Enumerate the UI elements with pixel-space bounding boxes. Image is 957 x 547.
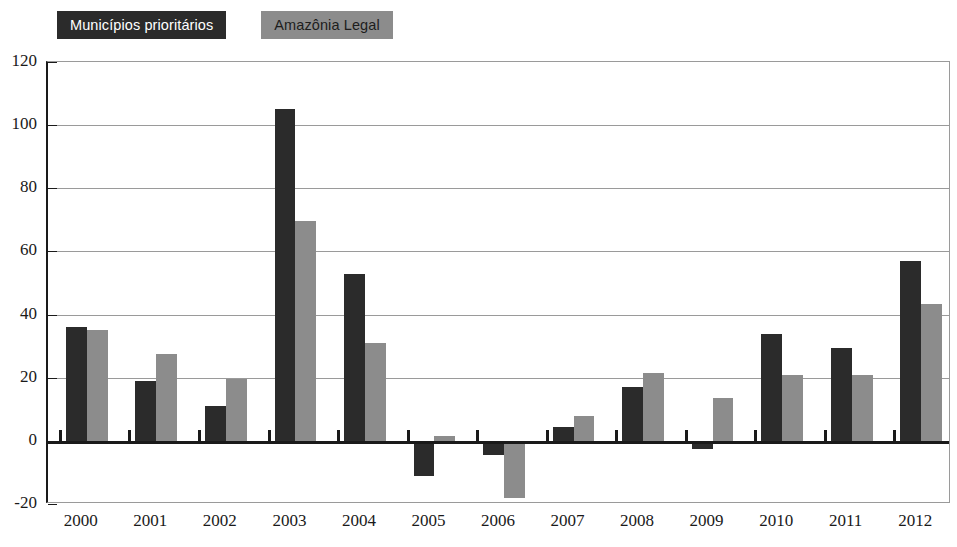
- bar-series-layer: [48, 62, 949, 502]
- legend-item-amazonia-legal: Amazônia Legal: [261, 11, 392, 39]
- x-axis-label-2006: 2006: [458, 511, 538, 531]
- x-axis-label-2008: 2008: [597, 511, 677, 531]
- bar-group: [66, 62, 108, 502]
- bar-2011-series-0: [831, 348, 852, 441]
- x-axis-label-2012: 2012: [875, 511, 955, 531]
- x-axis-tick: [198, 430, 201, 444]
- bar-group: [135, 62, 177, 502]
- chart-page: Municípios prioritários Amazônia Legal 1…: [0, 0, 957, 547]
- bar-group: [205, 62, 247, 502]
- bar-group: [553, 62, 595, 502]
- bar-2008-series-1: [643, 373, 664, 441]
- x-axis-label-2003: 2003: [249, 511, 329, 531]
- y-axis-tick: [48, 504, 57, 505]
- x-axis-label-2005: 2005: [388, 511, 468, 531]
- legend-item-municipios-prioritarios: Municípios prioritários: [57, 11, 226, 39]
- bar-group: [622, 62, 664, 502]
- x-axis-tick: [337, 430, 340, 444]
- bar-2003-series-1: [295, 221, 316, 440]
- x-axis-tick: [128, 430, 131, 444]
- x-axis-tick: [754, 430, 757, 444]
- bar-2007-series-0: [553, 427, 574, 441]
- plot-area: [46, 61, 950, 503]
- bar-2006-series-1: [504, 441, 525, 498]
- bar-2000-series-0: [66, 327, 87, 441]
- y-axis-label: 80: [0, 177, 37, 197]
- zero-baseline: [46, 441, 949, 444]
- bar-2000-series-1: [87, 330, 108, 441]
- x-axis-label-2011: 2011: [806, 511, 886, 531]
- x-axis-label-2000: 2000: [41, 511, 121, 531]
- x-axis-tick: [824, 430, 827, 444]
- bar-group: [761, 62, 803, 502]
- bar-2002-series-0: [205, 406, 226, 441]
- x-axis-label-2001: 2001: [110, 511, 190, 531]
- bar-2001-series-0: [135, 381, 156, 441]
- x-axis-tick: [476, 430, 479, 444]
- bar-2012-series-1: [921, 304, 942, 441]
- bar-group: [831, 62, 873, 502]
- bar-2004-series-1: [365, 343, 386, 441]
- bar-2001-series-1: [156, 354, 177, 441]
- y-axis-label: 60: [0, 240, 37, 260]
- x-axis-label-2010: 2010: [736, 511, 816, 531]
- x-axis-label-2007: 2007: [528, 511, 608, 531]
- bar-2004-series-0: [344, 274, 365, 441]
- bar-2009-series-1: [713, 398, 734, 441]
- bar-2007-series-1: [574, 416, 595, 441]
- bar-2003-series-0: [275, 109, 296, 441]
- x-axis-tick: [59, 430, 62, 444]
- x-axis-tick: [615, 430, 618, 444]
- bar-group: [900, 62, 942, 502]
- x-axis-label-2009: 2009: [667, 511, 747, 531]
- y-axis-label: 120: [0, 51, 37, 71]
- x-axis-label-2004: 2004: [319, 511, 399, 531]
- x-axis-tick: [685, 430, 688, 444]
- bar-2010-series-0: [761, 334, 782, 441]
- legend-label: Amazônia Legal: [274, 17, 379, 33]
- y-axis-label: 40: [0, 304, 37, 324]
- x-axis-tick: [893, 430, 896, 444]
- x-axis-tick: [546, 430, 549, 444]
- y-axis-label: 20: [0, 367, 37, 387]
- bar-2002-series-1: [226, 379, 247, 441]
- bar-2011-series-1: [852, 375, 873, 441]
- bar-group: [692, 62, 734, 502]
- chart-legend: Municípios prioritários Amazônia Legal: [57, 11, 393, 39]
- bar-group: [483, 62, 525, 502]
- y-axis-label: 100: [0, 114, 37, 134]
- bar-2008-series-0: [622, 387, 643, 441]
- bar-group: [414, 62, 456, 502]
- bar-2012-series-0: [900, 261, 921, 441]
- y-axis-label: 0: [0, 430, 37, 450]
- bar-2010-series-1: [782, 375, 803, 441]
- bar-group: [275, 62, 317, 502]
- x-axis-tick: [407, 430, 410, 444]
- legend-label: Municípios prioritários: [70, 17, 213, 33]
- bar-2005-series-0: [414, 441, 435, 476]
- x-axis-label-2002: 2002: [180, 511, 260, 531]
- bar-group: [344, 62, 386, 502]
- y-axis-label: -20: [0, 493, 37, 513]
- x-axis-tick: [268, 430, 271, 444]
